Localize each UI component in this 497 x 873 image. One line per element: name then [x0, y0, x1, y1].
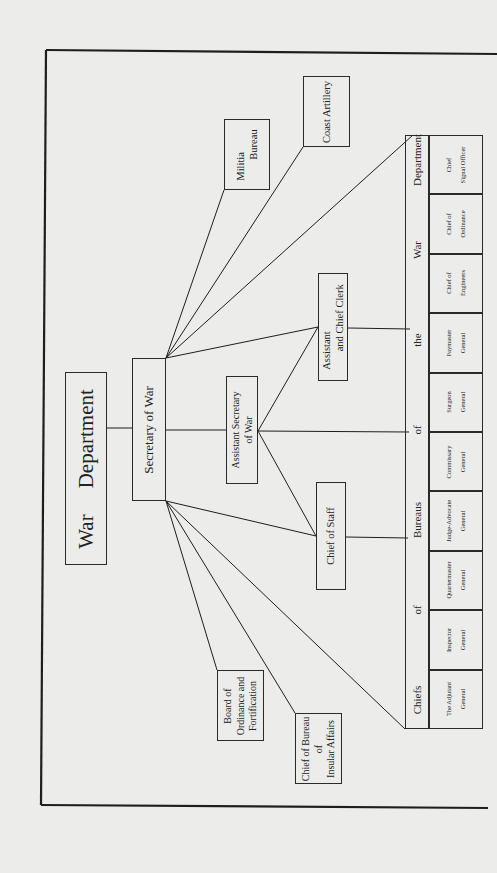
assistant-secretary-box: Assistant Secretary of War: [226, 376, 258, 484]
title-word-war: War: [74, 514, 98, 548]
bureau-cell-label: Inspector General: [442, 628, 469, 652]
bureau-cell: Chief of Engineers: [428, 254, 483, 313]
militia-bureau-label: Militia Bureau: [234, 129, 260, 180]
bureau-cell-label: Chief of Ordinance: [442, 211, 469, 238]
bureau-cell: Judge-Advocate General: [428, 491, 483, 550]
assistant-chief-clerk-box: Assistant and Chief Clerk: [318, 273, 348, 381]
bureau-cell-label: Chief Signal Officer: [442, 146, 469, 183]
bureau-cell-label: The Adjutant General: [442, 682, 469, 716]
bureau-cell-label: Judge-Advocate General: [442, 500, 469, 542]
title-word-department: Department: [74, 389, 98, 488]
militia-bureau-box: Militia Bureau: [224, 119, 270, 190]
bureau-cell: Quartermaster General: [428, 551, 483, 610]
coast-artillery-box: Coast Artillery: [303, 76, 350, 147]
bureau-cell: The Adjutant General: [428, 670, 483, 729]
board-of-ordinance-box: Board of Ordinance and Fortification: [217, 670, 264, 741]
chief-of-staff-label: Chief of Staff: [324, 507, 337, 565]
bureaus-header-word: the: [411, 333, 423, 346]
bureaus-header-word: Department: [411, 134, 423, 186]
bureaus-header-word: of: [411, 605, 423, 614]
assistant-secretary-label: Assistant Secretary of War: [230, 392, 255, 469]
insular-affairs-box: Chief of Bureau of Insular Affairs: [295, 713, 342, 784]
bureau-cell-label: Commissary General: [442, 445, 469, 478]
bureau-cell-label: Quartermaster General: [442, 562, 469, 599]
bureau-cell-label: Paymaster General: [442, 329, 469, 356]
chief-of-staff-box: Chief of Staff: [316, 482, 346, 590]
bureau-cell: Chief of Ordinance: [428, 194, 483, 253]
bureaus-header-word: Chiefs: [411, 686, 423, 715]
bureaus-header-word: of: [411, 425, 423, 434]
bureau-cell: Inspector General: [428, 610, 483, 669]
bureau-cell: Surgeon General: [428, 373, 483, 432]
board-of-ordinance-label: Board of Ordinance and Fortification: [222, 676, 260, 735]
secretary-of-war-box: Secretary of War: [132, 358, 166, 501]
bureaus-header-word: War: [411, 241, 423, 259]
bureau-cell-label: Chief of Engineers: [442, 270, 469, 296]
bureau-cell: Commissary General: [428, 432, 483, 491]
bureau-cell: Chief Signal Officer: [428, 135, 483, 194]
coast-artillery-label: Coast Artillery: [320, 80, 333, 142]
assistant-chief-clerk-label: Assistant and Chief Clerk: [320, 284, 346, 369]
secretary-of-war-label: Secretary of War: [141, 386, 157, 474]
bureaus-header-word: Bureaus: [411, 502, 423, 538]
insular-affairs-label: Chief of Bureau of Insular Affairs: [300, 716, 338, 780]
bureau-cell: Paymaster General: [428, 313, 483, 372]
war-department-box: WarDepartment: [65, 372, 107, 565]
bureau-cell-label: Surgeon General: [442, 392, 469, 414]
